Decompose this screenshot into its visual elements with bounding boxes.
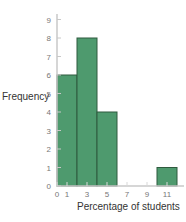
histogram-bar	[77, 38, 97, 186]
x-tick-label: 1	[65, 190, 70, 199]
histogram-bars	[57, 38, 177, 186]
x-tick-label: 7	[125, 190, 130, 199]
x-tick-label: 9	[145, 190, 150, 199]
y-tick-label: 4	[47, 108, 52, 117]
y-axis-label: Frequency	[2, 91, 49, 102]
y-tick-label: 1	[47, 164, 52, 173]
x-tick-label: 0	[55, 190, 60, 199]
y-tick-label: 7	[47, 53, 52, 62]
x-tick-label: 11	[163, 190, 172, 199]
x-axis-label: Percentage of students	[77, 201, 180, 212]
y-tick-label: 8	[47, 34, 52, 43]
x-tick-label: 3	[85, 190, 90, 199]
y-tick-label: 3	[47, 127, 52, 136]
y-tick-label: 9	[47, 16, 52, 25]
y-tick-label: 0	[47, 182, 52, 191]
y-tick-label: 2	[47, 145, 52, 154]
histogram-chart: 0123456789 01357911	[0, 0, 186, 222]
y-tick-label: 6	[47, 71, 52, 80]
x-tick-label: 5	[105, 190, 110, 199]
histogram-bar	[97, 112, 117, 186]
